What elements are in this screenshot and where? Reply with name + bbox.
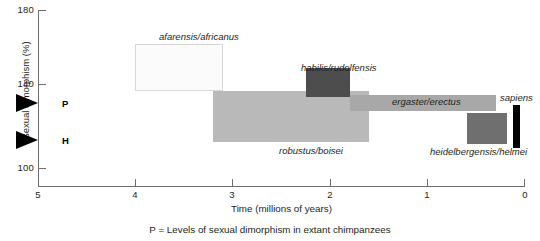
taxon-box-sapiens xyxy=(513,105,520,148)
x-tick-label-4: 4 xyxy=(125,189,145,200)
x-tick-3 xyxy=(232,179,233,186)
x-tick-2 xyxy=(330,179,331,186)
x-tick-label-5: 5 xyxy=(28,189,48,200)
y-axis-line xyxy=(38,10,39,186)
chart-footnote: P = Levels of sexual dimorphism in extan… xyxy=(0,224,540,235)
taxon-label-robustus-boisei: robustus/boisei xyxy=(279,145,343,156)
x-axis-title: Time (millions of years) xyxy=(38,203,525,214)
taxon-box-afarensis-africanus xyxy=(135,44,223,91)
taxon-label-heidelbergensis-helmei: heidelbergensis/helmei xyxy=(430,146,527,157)
taxon-label-habilis-rudolfensis: habilis/rudolfensis xyxy=(301,62,377,73)
y-tick-100 xyxy=(39,168,46,169)
marker-h-label: H xyxy=(62,135,69,146)
x-tick-4 xyxy=(135,179,136,186)
x-tick-label-2: 2 xyxy=(320,189,340,200)
x-tick-label-1: 1 xyxy=(417,189,437,200)
taxon-label-ergaster-erectus: ergaster/erectus xyxy=(392,96,461,107)
taxon-box-robustus-boisei xyxy=(213,91,369,142)
y-tick-140 xyxy=(39,84,46,85)
y-tick-180 xyxy=(39,10,46,11)
marker-p-label: P xyxy=(62,98,68,109)
x-tick-1 xyxy=(427,179,428,186)
y-tick-label-180: 180 xyxy=(0,4,34,15)
x-tick-5 xyxy=(38,179,39,186)
x-tick-0 xyxy=(524,179,525,186)
x-tick-label-3: 3 xyxy=(222,189,242,200)
sexual-dimorphism-chart: 180 140 100 5 4 3 2 1 0 Sexual dimorphis… xyxy=(0,0,540,241)
x-axis-line xyxy=(38,186,525,187)
x-tick-label-0: 0 xyxy=(515,189,535,200)
marker-p-triangle-icon xyxy=(16,94,38,112)
marker-h-triangle-icon xyxy=(16,131,38,149)
taxon-label-afarensis-africanus: afarensis/africanus xyxy=(159,31,239,42)
taxon-label-sapiens: sapiens xyxy=(500,92,533,103)
taxon-box-heidelbergensis-helmei xyxy=(467,113,508,145)
